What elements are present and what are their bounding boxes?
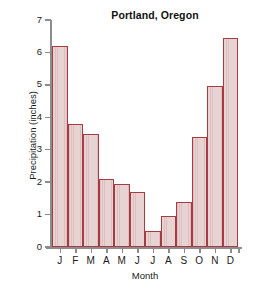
x-axis-tick [168,248,170,253]
x-axis-tick [199,248,201,253]
bar-A-7 [161,216,177,247]
bar-J-0 [52,46,68,247]
x-axis-tick [60,248,62,253]
x-axis-title: Month [52,270,238,281]
x-axis-tick [230,248,232,253]
bar-M-4 [114,184,130,247]
y-axis-tick [45,181,51,183]
plot-area: 01234567 JFMAMJJASOND [52,20,238,247]
x-axis-tick [122,248,124,253]
bar-F-1 [68,124,84,247]
y-axis-tick [45,214,51,216]
y-axis-tick [45,52,51,54]
y-axis-tick-label: 6 [25,47,42,57]
bar-S-8 [176,202,192,247]
chart-figure: Portland, Oregon Precipitation (inches) … [0,0,271,291]
x-axis-tick-label: D [221,256,239,266]
x-axis-tick [184,248,186,253]
bar-N-10 [207,86,223,247]
x-axis-tick [75,248,77,253]
x-axis-tick [153,248,155,253]
x-axis-tick [238,248,240,253]
bar-J-6 [145,231,161,247]
y-axis-tick-label: 5 [25,79,42,89]
bar-M-2 [83,134,99,248]
bar-O-9 [192,137,208,247]
x-axis-tick [215,248,217,253]
bar-J-5 [130,192,146,247]
y-axis-tick [45,117,51,119]
y-axis-tick-label: 0 [25,242,42,252]
bar-A-3 [99,179,115,247]
bar-D-11 [223,38,239,247]
y-axis-tick [45,19,51,21]
y-axis-tick-label: 1 [25,209,42,219]
y-axis-tick [45,84,51,86]
x-axis-tick [106,248,108,253]
y-axis-tick [45,246,51,248]
y-axis-tick-label: 4 [25,112,42,122]
y-axis-tick-label: 2 [25,177,42,187]
x-axis-tick [91,248,93,253]
y-axis-tick-label: 3 [25,144,42,154]
y-axis-tick-label: 7 [25,15,42,25]
x-axis-tick [137,248,139,253]
y-axis-tick [45,149,51,151]
